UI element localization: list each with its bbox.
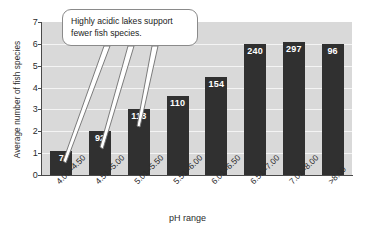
y-axis-tick: 2 [38,131,42,132]
bar-value-label: 92 [89,133,111,143]
callout-line-1: Highly acidic lakes support [71,16,173,26]
annotation-callout: Highly acidic lakes support fewer fish s… [62,9,198,46]
gridline [42,88,352,89]
bar-value-label: 118 [128,111,150,121]
bar-value-label: 297 [283,44,305,54]
y-axis-tick: 4 [38,88,42,89]
y-axis-tick: 6 [38,44,42,45]
y-axis-tick-label: 4 [33,83,38,93]
y-axis-tick-label: 1 [33,148,38,158]
y-axis-tick: 3 [38,109,42,110]
y-gridline-row: 5 [42,66,352,67]
y-gridline-row: 3 [42,109,352,110]
callout-line-2: fewer fish species. [71,28,142,38]
gridline [42,109,352,110]
y-axis-tick-label: 2 [33,126,38,136]
y-axis-tick-label: 0 [33,170,38,180]
y-axis-tick: 0 [38,175,42,176]
gridline [42,66,352,67]
y-axis-tick: 7 [38,22,42,23]
bar-value-label: 96 [322,46,344,56]
y-axis-tick: 1 [38,153,42,154]
y-axis-title: Average number of fish species [13,20,22,180]
chart-figure: Average number of fish species 012345677… [0,0,375,237]
bar: 154 [205,77,227,175]
bar-value-label: 110 [167,98,189,108]
y-gridline-row: 0 [42,175,352,176]
x-axis-title: pH range [0,213,375,223]
bar: 96 [322,44,344,175]
y-axis-tick-label: 6 [33,39,38,49]
bar: 297 [283,42,305,175]
bar-value-label: 7 [50,153,72,163]
y-axis-tick-label: 5 [33,61,38,71]
bar: 240 [244,44,266,175]
y-axis-tick-label: 3 [33,104,38,114]
y-gridline-row: 4 [42,88,352,89]
bar-value-label: 154 [205,79,227,89]
y-axis-tick: 5 [38,66,42,67]
y-axis-tick-label: 7 [33,17,38,27]
bar-value-label: 240 [244,46,266,56]
